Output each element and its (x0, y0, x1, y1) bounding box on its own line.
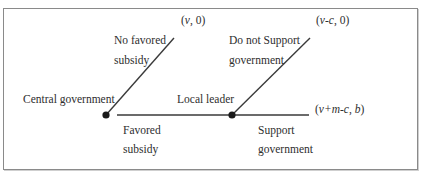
branch-label-support-line1: Support (258, 124, 294, 137)
branch-label-not-support-line2: government (229, 54, 284, 67)
payoff-no-favored-subsidy: (v, 0) (181, 14, 205, 27)
branch-label-no-favored-line1: No favored (114, 34, 166, 47)
branch-label-favored-line1: Favored (123, 124, 161, 137)
branch-label-support-line2: government (258, 143, 313, 156)
node-local-leader (228, 111, 235, 118)
game-tree-svg (0, 0, 427, 174)
node-central-government (102, 111, 109, 118)
payoff-do-not-support: (v-c, 0) (316, 14, 349, 27)
branch-do-not-support (232, 38, 310, 115)
branch-label-favored-line2: subsidy (123, 143, 158, 156)
node-label-central-government: Central government (23, 93, 115, 106)
branch-label-not-support-line1: Do not Support (229, 34, 300, 47)
branch-no-favored-subsidy (106, 38, 174, 115)
payoff-support: (v+m-c, b) (315, 103, 364, 116)
node-label-local-leader: Local leader (177, 93, 234, 106)
branch-label-no-favored-line2: subsidy (114, 54, 149, 67)
